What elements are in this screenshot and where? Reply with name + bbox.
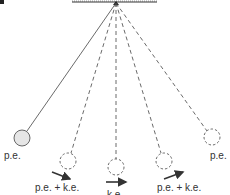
label-ke-bottom: k.e.: [107, 190, 123, 195]
label-pe-ke-right: p.e. + k.e.: [157, 183, 201, 193]
label-pe-left: p.e.: [4, 151, 21, 161]
bob-bottom: [108, 159, 124, 175]
label-pe-ke-left: p.e. + k.e.: [35, 183, 79, 193]
velocity-arrow-left: [52, 172, 70, 179]
string-solid: [27, 3, 116, 131]
bob-left-mid: [60, 153, 76, 169]
bob-right-mid: [156, 153, 172, 169]
string-dashed-2: [71, 3, 116, 153]
ceiling-support: [72, 0, 157, 2]
bob-left-extreme: [14, 130, 30, 146]
label-pe-right: p.e.: [210, 151, 227, 161]
pendulum-diagram: [0, 0, 230, 195]
string-dashed-4: [116, 3, 161, 153]
string-dashed-5: [116, 3, 207, 131]
bob-right-extreme: [204, 129, 220, 145]
velocity-arrow-right: [164, 172, 183, 179]
